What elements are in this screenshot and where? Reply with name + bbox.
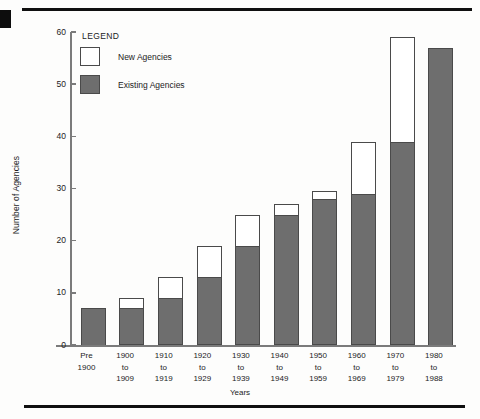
x-tick-label-line: 1929 xyxy=(184,373,221,385)
x-tick-label-line: 1909 xyxy=(107,373,144,385)
bar-segment-new-agencies xyxy=(312,191,337,199)
legend-item-label: Existing Agencies xyxy=(118,80,185,90)
x-tick-label-line: Pre xyxy=(68,350,105,362)
bar-segment-existing-agencies xyxy=(119,308,144,345)
x-tick-label-line: 1919 xyxy=(145,373,182,385)
bar-segment-new-agencies xyxy=(351,142,376,194)
x-tick-label-line: to xyxy=(107,362,144,374)
x-tick-label: 1900to1909 xyxy=(107,350,144,385)
x-tick-label: 1930to1939 xyxy=(222,350,259,385)
x-tick-label-line: 1949 xyxy=(261,373,298,385)
x-tick-label-line: 1979 xyxy=(377,373,414,385)
bar-segment-new-agencies xyxy=(235,215,260,246)
x-tick-label-line: 1930 xyxy=(222,350,259,362)
x-tick-label-line: to xyxy=(377,362,414,374)
bar-stack xyxy=(119,298,144,345)
y-tick-label: 50 xyxy=(40,80,66,89)
y-axis-title: Number of Agencies xyxy=(11,135,21,255)
x-tick-label-line: 1988 xyxy=(415,373,452,385)
x-tick-label-line: to xyxy=(415,362,452,374)
x-tick-label-line: 1900 xyxy=(68,362,105,374)
x-tick-label: 1920to1929 xyxy=(184,350,221,385)
x-tick-label-line: 1950 xyxy=(300,350,337,362)
bar-stack xyxy=(390,37,415,345)
bar-segment-existing-agencies xyxy=(428,48,453,345)
legend-swatch-existing xyxy=(80,75,100,94)
x-tick-label-line: to xyxy=(300,362,337,374)
bar-stack xyxy=(428,48,453,345)
x-tick-label-line: 1900 xyxy=(107,350,144,362)
bar-segment-existing-agencies xyxy=(197,277,222,345)
x-tick-label-line: to xyxy=(184,362,221,374)
scanned-page: 0102030405060 Number of Agencies Pre1900… xyxy=(0,0,480,419)
y-tick-label: 30 xyxy=(40,184,66,193)
x-tick-label-line: to xyxy=(261,362,298,374)
bar-stack xyxy=(351,142,376,345)
x-tick-label-line: to xyxy=(222,362,259,374)
y-tick-label: 60 xyxy=(40,28,66,37)
x-tick-label-line: 1959 xyxy=(300,373,337,385)
bar-group[interactable] xyxy=(274,32,299,345)
x-tick-label-line: to xyxy=(338,362,375,374)
x-tick-label-line: to xyxy=(145,362,182,374)
bar-chart: 0102030405060 Number of Agencies Pre1900… xyxy=(0,0,480,419)
bar-stack xyxy=(235,215,260,345)
bar-segment-existing-agencies xyxy=(390,142,415,345)
x-tick-label: 1970to1979 xyxy=(377,350,414,385)
bar-segment-existing-agencies xyxy=(312,199,337,345)
bar-segment-new-agencies xyxy=(197,246,222,277)
x-tick-label: Pre1900 xyxy=(68,350,105,373)
x-tick-label-line: 1970 xyxy=(377,350,414,362)
bar-segment-existing-agencies xyxy=(274,215,299,345)
x-tick-label: 1950to1959 xyxy=(300,350,337,385)
x-tick-label: 1960to1969 xyxy=(338,350,375,385)
bar-segment-existing-agencies xyxy=(158,298,183,345)
bar-segment-new-agencies xyxy=(119,298,144,308)
x-axis-title: Years xyxy=(0,388,480,397)
x-tick-label: 1980to1988 xyxy=(415,350,452,385)
bar-group[interactable] xyxy=(351,32,376,345)
bar-segment-existing-agencies xyxy=(81,308,106,345)
x-tick-label: 1940to1949 xyxy=(261,350,298,385)
x-tick-label: 1910to1919 xyxy=(145,350,182,385)
x-tick-label-line: 1969 xyxy=(338,373,375,385)
bar-segment-new-agencies xyxy=(158,277,183,298)
legend-swatch-new xyxy=(80,47,100,66)
bar-segment-existing-agencies xyxy=(235,246,260,345)
legend-item[interactable]: Existing Agencies xyxy=(80,75,240,94)
bar-stack xyxy=(312,191,337,345)
legend-item-label: New Agencies xyxy=(118,52,172,62)
bar-segment-new-agencies xyxy=(390,37,415,141)
x-tick-label-line: 1940 xyxy=(261,350,298,362)
bar-group[interactable] xyxy=(390,32,415,345)
chart-legend: LEGEND New AgenciesExisting Agencies xyxy=(80,31,240,103)
bar-stack xyxy=(197,246,222,345)
bar-stack xyxy=(158,277,183,345)
bar-group[interactable] xyxy=(428,32,453,345)
x-tick-label-line: 1960 xyxy=(338,350,375,362)
bar-group[interactable] xyxy=(312,32,337,345)
x-axis-line xyxy=(56,345,456,347)
y-tick-label: 10 xyxy=(40,288,66,297)
x-tick-label-line: 1910 xyxy=(145,350,182,362)
legend-item[interactable]: New Agencies xyxy=(80,47,240,66)
x-tick-label-line: 1980 xyxy=(415,350,452,362)
y-tick-label: 20 xyxy=(40,236,66,245)
y-tick-label: 0 xyxy=(40,341,66,350)
y-tick-label: 40 xyxy=(40,132,66,141)
legend-title: LEGEND xyxy=(80,31,240,41)
x-tick-label-line: 1920 xyxy=(184,350,221,362)
x-tick-label-line: 1939 xyxy=(222,373,259,385)
bar-stack xyxy=(81,308,106,345)
bar-stack xyxy=(274,204,299,345)
bar-segment-existing-agencies xyxy=(351,194,376,345)
bar-segment-new-agencies xyxy=(274,204,299,214)
legend-items: New AgenciesExisting Agencies xyxy=(80,47,240,94)
